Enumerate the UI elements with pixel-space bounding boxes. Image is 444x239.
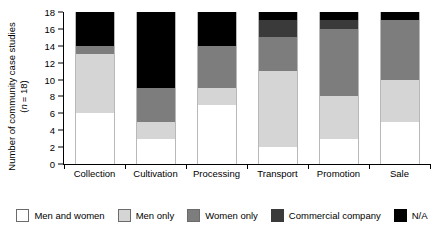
bar-segment[interactable]: [381, 80, 419, 122]
legend-swatch-icon: [16, 209, 29, 222]
bar-segment[interactable]: [137, 88, 175, 122]
legend-swatch-icon: [394, 209, 407, 222]
bar-segment[interactable]: [381, 20, 419, 79]
bar-segment[interactable]: [198, 88, 236, 105]
legend-label: Men only: [136, 210, 175, 221]
y-axis-tick-label: 16: [44, 23, 55, 34]
bar-segment[interactable]: [320, 12, 358, 20]
bar-sale[interactable]: [380, 12, 420, 164]
bar-segment[interactable]: [259, 20, 297, 37]
y-axis-tick-label: 14: [44, 40, 55, 51]
y-axis-title: Number of community case studies (n = 18…: [0, 0, 34, 192]
bar-segment[interactable]: [259, 71, 297, 147]
x-axis-label: Promotion: [317, 168, 360, 179]
bar-segment[interactable]: [76, 54, 114, 113]
legend-swatch-icon: [118, 209, 131, 222]
bar-segment[interactable]: [381, 12, 419, 20]
y-axis-tick-label: 4: [50, 125, 55, 136]
y-axis-tick-label: 8: [50, 91, 55, 102]
bar-series-group: [64, 12, 430, 164]
bar-segment[interactable]: [137, 122, 175, 139]
chart-legend: Men and womenMen onlyWomen onlyCommercia…: [0, 203, 444, 227]
y-axis-title-line1: Number of community case studies: [6, 22, 17, 170]
bar-segment[interactable]: [259, 147, 297, 164]
legend-item[interactable]: Commercial company: [271, 209, 381, 222]
x-axis-label: Processing: [193, 168, 240, 179]
bar-collection[interactable]: [75, 12, 115, 164]
sample-size-symbol: n: [17, 104, 28, 109]
bar-cultivation[interactable]: [136, 12, 176, 164]
bar-segment[interactable]: [198, 46, 236, 88]
legend-item[interactable]: N/A: [394, 209, 428, 222]
bar-segment[interactable]: [320, 139, 358, 164]
legend-swatch-icon: [187, 209, 200, 222]
bar-segment[interactable]: [76, 113, 114, 164]
x-axis-label: Sale: [390, 168, 409, 179]
legend-swatch-icon: [271, 209, 284, 222]
y-axis-tick-label: 18: [44, 7, 55, 18]
legend-label: Men and women: [34, 210, 104, 221]
bar-segment[interactable]: [198, 105, 236, 164]
legend-label: Women only: [205, 210, 258, 221]
bar-segment[interactable]: [259, 12, 297, 20]
sample-size-value: = 18): [17, 80, 28, 102]
bar-segment[interactable]: [198, 12, 236, 46]
bar-segment[interactable]: [76, 12, 114, 46]
y-axis-title-line2: (n = 18): [17, 22, 29, 170]
x-axis-label: Collection: [74, 168, 116, 179]
y-axis-tick-label: 0: [50, 159, 55, 170]
bar-segment[interactable]: [320, 20, 358, 28]
y-axis-tick-label: 12: [44, 57, 55, 68]
x-axis-category-labels: CollectionCultivationProcessingTransport…: [64, 168, 430, 186]
legend-label: N/A: [412, 210, 428, 221]
legend-label: Commercial company: [289, 210, 381, 221]
bar-segment[interactable]: [76, 46, 114, 54]
legend-item[interactable]: Women only: [187, 209, 258, 222]
y-axis-tick-labels: 024681012141618: [34, 12, 58, 164]
x-axis-tick-mark: [430, 164, 431, 169]
bar-segment[interactable]: [259, 37, 297, 71]
bar-processing[interactable]: [197, 12, 237, 164]
y-axis-tick-label: 2: [50, 142, 55, 153]
plot-area: 024681012141618: [34, 12, 430, 180]
x-axis-label: Cultivation: [133, 168, 177, 179]
bar-segment[interactable]: [137, 139, 175, 164]
legend-item[interactable]: Men only: [118, 209, 175, 222]
bar-segment[interactable]: [320, 96, 358, 138]
bar-segment[interactable]: [320, 29, 358, 97]
x-axis-label: Transport: [257, 168, 297, 179]
bar-segment[interactable]: [137, 12, 175, 88]
bar-transport[interactable]: [258, 12, 298, 164]
bar-promotion[interactable]: [319, 12, 359, 164]
bar-segment[interactable]: [381, 122, 419, 164]
legend-item[interactable]: Men and women: [16, 209, 104, 222]
stacked-bar-chart: Number of community case studies (n = 18…: [0, 0, 444, 239]
y-axis-tick-label: 10: [44, 74, 55, 85]
y-axis-tick-label: 6: [50, 108, 55, 119]
